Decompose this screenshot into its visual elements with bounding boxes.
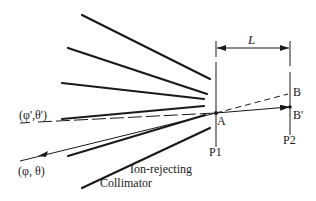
incident-ray-arrow-icon xyxy=(38,151,48,157)
distance-label: L xyxy=(247,32,255,47)
incident-angle-label: (φ, θ) xyxy=(18,164,45,178)
point-a-label: A xyxy=(217,114,226,128)
point-b-label: B xyxy=(293,85,301,99)
point-b-prime-label: B' xyxy=(293,108,303,122)
collimator-diagram: L A B B' P1 P2 (φ',θ') (φ, θ) Ion-reject… xyxy=(0,0,316,201)
collimator-label-line1: Ion-rejecting xyxy=(130,162,192,176)
incident-ray xyxy=(20,113,216,161)
deflected-angle-label: (φ',θ') xyxy=(19,108,47,122)
point-b-prime-marker xyxy=(288,105,292,109)
deflected-ray-tail xyxy=(20,123,30,124)
plane-p1-label: P1 xyxy=(209,145,222,159)
collimator-label-line2: Collimator xyxy=(100,176,152,190)
collimator-plate-1 xyxy=(82,15,210,79)
plane-p2-label: P2 xyxy=(283,133,296,147)
